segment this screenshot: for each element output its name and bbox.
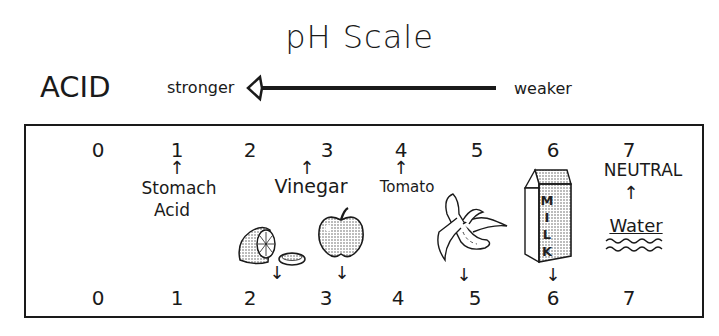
weaker-label: weaker <box>514 79 572 98</box>
water-waves-icon <box>604 236 668 254</box>
top-scale-0: 0 <box>83 138 113 162</box>
top-scale-2: 2 <box>235 138 265 162</box>
up-arrow-icon: ↑ <box>391 157 411 178</box>
stomach-acid-label-line2: Acid <box>154 200 190 221</box>
up-arrow-icon: ↑ <box>621 182 641 203</box>
carton-letter: L <box>539 226 555 243</box>
banana-icon <box>433 190 509 262</box>
acid-label: ACID <box>40 70 110 104</box>
neutral-label: NEUTRAL <box>604 160 683 181</box>
milk-carton-text: M I L K <box>539 192 555 260</box>
bottom-scale-4: 4 <box>383 286 413 310</box>
carton-letter: I <box>539 209 555 226</box>
bottom-scale-2: 2 <box>235 286 265 310</box>
top-scale-7: 7 <box>614 138 644 162</box>
down-arrow-icon: ↓ <box>543 264 563 285</box>
carton-letter: K <box>539 243 555 260</box>
bottom-scale-5: 5 <box>460 286 490 310</box>
bottom-scale-3: 3 <box>311 286 341 310</box>
page-title: pH Scale <box>0 18 719 56</box>
top-scale-5: 5 <box>462 138 492 162</box>
water-label: Water <box>609 215 662 236</box>
bottom-scale-6: 6 <box>538 286 568 310</box>
tomato-label: Tomato <box>380 177 435 198</box>
stomach-acid-label-line1: Stomach <box>142 178 217 199</box>
apple-icon <box>316 206 366 262</box>
vinegar-label: Vinegar <box>274 176 347 197</box>
direction-arrow-icon <box>186 74 506 102</box>
bottom-scale-1: 1 <box>162 286 192 310</box>
top-scale-6: 6 <box>538 138 568 162</box>
bottom-scale-0: 0 <box>83 286 113 310</box>
down-arrow-icon: ↓ <box>332 262 352 283</box>
carton-letter: M <box>539 192 555 209</box>
up-arrow-icon: ↑ <box>167 157 187 178</box>
bottom-scale-7: 7 <box>614 286 644 310</box>
down-arrow-icon: ↓ <box>267 262 287 283</box>
down-arrow-icon: ↓ <box>454 264 474 285</box>
